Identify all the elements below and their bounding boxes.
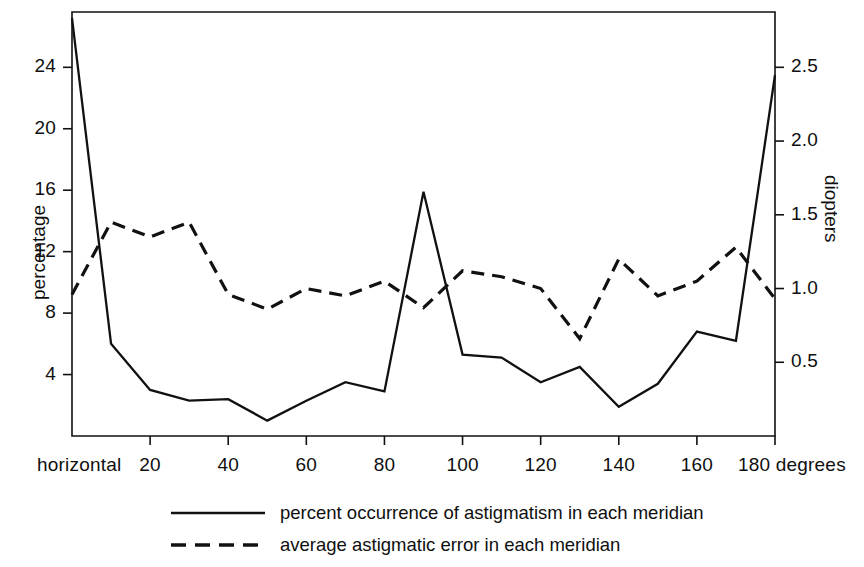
- right-tick-label: 1.5: [791, 203, 818, 225]
- canvas-background: [0, 0, 864, 567]
- bottom-tick-label: 40: [217, 454, 239, 476]
- bottom-tick-label: 180 degrees: [738, 454, 846, 476]
- left-tick-label: 16: [34, 178, 56, 200]
- right-tick-label: 2.5: [791, 55, 818, 77]
- legend-label-solid: percent occurrence of astigmatism in eac…: [280, 502, 704, 524]
- right-axis-label: diopters: [820, 175, 842, 243]
- bottom-tick-label: 100: [446, 454, 478, 476]
- left-tick-label: 8: [45, 301, 56, 323]
- bottom-tick-label: 120: [525, 454, 557, 476]
- bottom-tick-label: 140: [603, 454, 635, 476]
- legend-swatch-dashed: [170, 538, 266, 552]
- legend-swatch-solid: [170, 506, 266, 520]
- right-tick-label: 1.0: [791, 277, 818, 299]
- bottom-tick-label: 80: [374, 454, 396, 476]
- left-tick-label: 20: [34, 117, 56, 139]
- legend-entry-dashed: average astigmatic error in each meridia…: [170, 532, 620, 558]
- left-tick-label: 24: [34, 55, 56, 77]
- bottom-tick-label: 20: [139, 454, 161, 476]
- bottom-tick-label: 60: [296, 454, 318, 476]
- bottom-tick-label: horizontal: [37, 454, 121, 476]
- bottom-tick-label: 160: [681, 454, 713, 476]
- right-tick-label: 0.5: [791, 350, 818, 372]
- plot-canvas: [0, 0, 864, 567]
- right-tick-label: 2.0: [791, 129, 818, 151]
- legend-label-dashed: average astigmatic error in each meridia…: [280, 534, 620, 556]
- left-axis-label: percentage: [28, 205, 50, 300]
- astigmatism-meridian-chart: 48121620240.51.01.52.02.5horizontal20406…: [0, 0, 864, 567]
- legend-entry-solid: percent occurrence of astigmatism in eac…: [170, 500, 704, 526]
- left-tick-label: 4: [45, 363, 56, 385]
